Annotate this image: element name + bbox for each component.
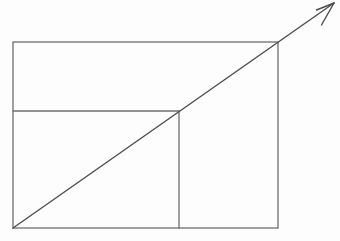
background bbox=[0, 0, 340, 241]
geometry-figure-svg bbox=[0, 0, 340, 241]
diagram-canvas bbox=[0, 0, 340, 241]
